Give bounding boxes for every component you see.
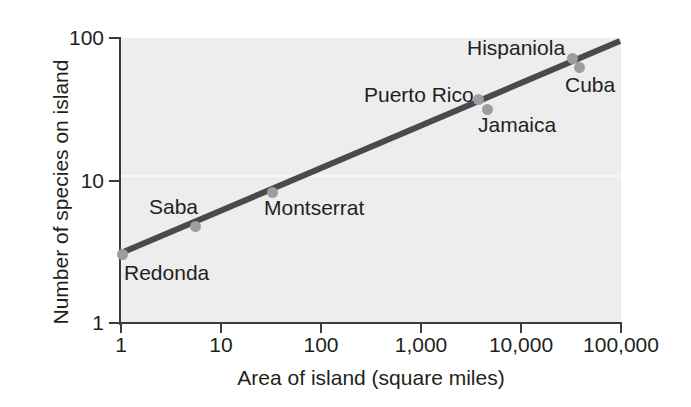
point-label-jamaica: Jamaica bbox=[478, 114, 556, 136]
y-axis-title: Number of species on island bbox=[49, 42, 73, 342]
data-point-puerto-rico bbox=[473, 94, 484, 105]
gridline-horizontal bbox=[121, 175, 621, 177]
x-axis-line bbox=[119, 322, 622, 324]
x-tick-label-100000: 100,000 bbox=[583, 334, 659, 356]
x-tick-100000 bbox=[620, 322, 622, 333]
point-label-cuba: Cuba bbox=[565, 74, 615, 96]
point-label-montserrat: Montserrat bbox=[264, 197, 364, 219]
species-area-chart-figure: 100 10 1 Number of species on island 1 1… bbox=[0, 0, 691, 407]
data-point-cuba bbox=[574, 62, 585, 73]
x-tick-label-10: 10 bbox=[209, 334, 232, 356]
x-tick-10 bbox=[220, 322, 222, 333]
point-label-saba: Saba bbox=[149, 196, 198, 218]
x-tick-label-10000: 10,000 bbox=[489, 334, 553, 356]
y-tick-label-1: 1 bbox=[92, 312, 104, 333]
y-tick-label-100: 100 bbox=[69, 27, 104, 48]
y-tick-10 bbox=[109, 180, 120, 182]
point-label-puerto-rico: Puerto Rico bbox=[364, 84, 474, 106]
point-label-redonda: Redonda bbox=[124, 262, 209, 284]
x-tick-1 bbox=[120, 322, 122, 333]
y-tick-label-10: 10 bbox=[81, 170, 104, 191]
x-tick-label-1: 1 bbox=[115, 334, 127, 356]
x-tick-label-100: 100 bbox=[303, 334, 338, 356]
y-tick-100 bbox=[109, 37, 120, 39]
point-label-hispaniola: Hispaniola bbox=[467, 37, 565, 59]
x-tick-10000 bbox=[520, 322, 522, 333]
x-tick-100 bbox=[320, 322, 322, 333]
x-tick-label-1000: 1,000 bbox=[395, 334, 448, 356]
x-tick-1000 bbox=[420, 322, 422, 333]
data-point-redonda bbox=[117, 249, 128, 260]
data-point-saba bbox=[190, 221, 201, 232]
x-axis-title: Area of island (square miles) bbox=[121, 366, 621, 390]
